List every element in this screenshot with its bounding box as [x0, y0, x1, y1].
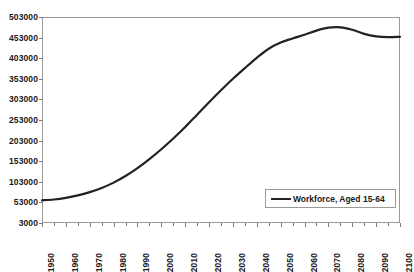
y-axis-tick-label: 303000 [0, 94, 38, 104]
legend-line-swatch [271, 198, 291, 200]
y-axis-tick-label: 103000 [0, 177, 38, 187]
y-axis-tick-label: 353000 [0, 74, 38, 84]
x-axis-tick-label: 2100 [404, 253, 414, 272]
y-axis-tick-label: 253000 [0, 115, 38, 125]
x-axis-tick-label: 2050 [285, 253, 295, 272]
y-axis-tick-label: 53000 [0, 197, 38, 207]
y-axis-tick-label: 3000 [0, 218, 38, 228]
x-axis-tick-label: 2060 [309, 253, 319, 272]
y-axis-tick-label: 153000 [0, 156, 38, 166]
x-axis-tick-label: 1960 [70, 253, 80, 272]
x-axis-tick-label: 2000 [165, 253, 175, 272]
x-axis-tick-label: 2020 [213, 253, 223, 272]
chart-legend: Workforce, Aged 15-64 [265, 189, 396, 208]
data-line-workforce [42, 27, 400, 200]
x-axis-tick-label: 2090 [380, 253, 390, 272]
x-axis-tick-label: 2030 [237, 253, 247, 272]
y-axis-tick-label: 503000 [0, 12, 38, 22]
x-axis-tick-label: 1970 [94, 253, 104, 272]
x-axis-tick-label: 1950 [46, 253, 56, 272]
x-axis-tick-label: 1990 [141, 253, 151, 272]
y-axis-tick-label: 203000 [0, 136, 38, 146]
legend-label: Workforce, Aged 15-64 [293, 194, 385, 204]
y-axis-tick-label: 403000 [0, 53, 38, 63]
x-axis-tick-label: 2040 [261, 253, 271, 272]
x-axis-tick-label: 2070 [332, 253, 342, 272]
x-axis-tick-label: 2010 [189, 253, 199, 272]
x-axis-tick-label: 1980 [118, 253, 128, 272]
x-axis-tick-label: 2080 [356, 253, 366, 272]
y-axis-tick-label: 453000 [0, 33, 38, 43]
